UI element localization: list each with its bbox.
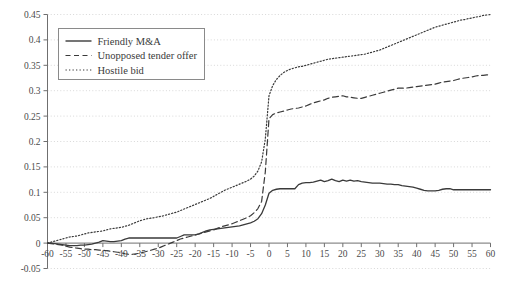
x-tick-label: 60 xyxy=(486,249,496,259)
x-tick-label: -20 xyxy=(189,249,202,259)
y-axis xyxy=(44,15,48,269)
y-tick-label: -0.05 xyxy=(21,264,41,274)
x-axis xyxy=(48,243,491,247)
x-tick-label: -60 xyxy=(41,249,54,259)
legend-label: Friendly M&A xyxy=(98,36,162,47)
x-tick-label: -50 xyxy=(78,249,91,259)
x-tick-label: 5 xyxy=(285,249,290,259)
legend-label: Unopposed tender offer xyxy=(98,50,198,61)
x-tick-label: 40 xyxy=(412,249,422,259)
x-tick-label: -55 xyxy=(60,249,73,259)
x-tick-label: 10 xyxy=(301,249,311,259)
x-tick-label: 55 xyxy=(467,249,477,259)
y-tick-label: 0.25 xyxy=(24,112,41,122)
y-tick-label: 0.45 xyxy=(24,10,41,20)
legend-label: Hostile bid xyxy=(98,65,145,76)
y-tick-label: 0.1 xyxy=(29,188,41,198)
y-tick-label: 0 xyxy=(36,239,41,249)
y-tick-label: 0.3 xyxy=(29,86,41,96)
x-tick-label: 25 xyxy=(357,249,367,259)
chart-container: -0.0500.050.10.150.20.250.30.350.40.45 -… xyxy=(0,0,514,285)
series-line-friendly-m-a xyxy=(48,179,491,246)
x-tick-label: -5 xyxy=(247,249,255,259)
x-tick-label: 35 xyxy=(393,249,403,259)
x-tick-label: 20 xyxy=(338,249,348,259)
x-tick-label: 30 xyxy=(375,249,385,259)
y-tick-label: 0.15 xyxy=(24,162,41,172)
x-tick-label: 0 xyxy=(267,249,272,259)
y-tick-label: 0.35 xyxy=(24,61,41,71)
cumulative-abnormal-return-chart: -0.0500.050.10.150.20.250.30.350.40.45 -… xyxy=(0,0,514,285)
x-tick-label: -10 xyxy=(226,249,239,259)
y-tick-labels: -0.0500.050.10.150.20.250.30.350.40.45 xyxy=(21,10,41,274)
x-tick-label: -30 xyxy=(152,249,165,259)
y-tick-label: 0.2 xyxy=(29,137,41,147)
y-tick-label: 0.05 xyxy=(24,213,41,223)
x-tick-label: 15 xyxy=(320,249,330,259)
y-tick-label: 0.4 xyxy=(29,35,41,45)
x-tick-label: 50 xyxy=(449,249,459,259)
x-tick-label: 45 xyxy=(430,249,440,259)
x-tick-label: -25 xyxy=(170,249,183,259)
series-line-unopposed-tender-offer xyxy=(48,74,491,254)
chart-legend: Friendly M&AUnopposed tender offerHostil… xyxy=(59,29,205,80)
x-tick-label: -15 xyxy=(207,249,220,259)
